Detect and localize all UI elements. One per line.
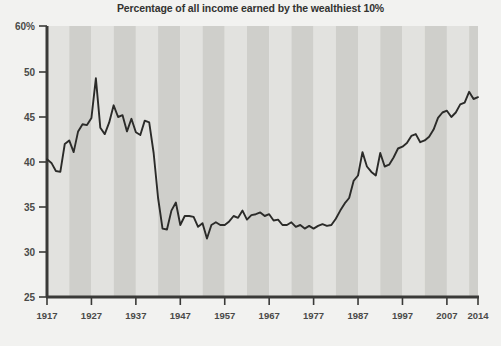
x-tick-label: 2007 — [436, 310, 457, 321]
y-tick-label: 45 — [24, 112, 36, 123]
x-tick-label: 1987 — [347, 310, 368, 321]
y-tick-label: 25 — [24, 292, 36, 303]
background-band — [469, 26, 478, 297]
x-tick-label: 1917 — [36, 310, 57, 321]
background-band — [69, 26, 91, 297]
background-band — [203, 26, 225, 297]
background-band — [269, 26, 291, 297]
x-tick-label: 1957 — [214, 310, 235, 321]
x-tick-label: 1927 — [81, 310, 102, 321]
background-band — [336, 26, 358, 297]
y-tick-label: 50 — [24, 67, 36, 78]
background-band — [91, 26, 113, 297]
x-tick-label: 1967 — [259, 310, 280, 321]
x-tick-label: 1937 — [125, 310, 146, 321]
y-tick-label: 30 — [24, 247, 36, 258]
background-band — [314, 26, 336, 297]
background-band — [247, 26, 269, 297]
line-chart-plot: 60%504540353025 191719271937194719571967… — [0, 0, 501, 346]
x-tick-label: 1977 — [303, 310, 324, 321]
background-band — [402, 26, 424, 297]
y-tick-label: 60% — [15, 21, 35, 32]
y-tick-label: 35 — [24, 202, 36, 213]
x-axis-ticks: 1917192719371947195719671977198719972007… — [36, 297, 489, 321]
background-band — [114, 26, 136, 297]
background-bands — [47, 26, 478, 297]
background-band — [291, 26, 313, 297]
chart-container: Percentage of all income earned by the w… — [0, 0, 501, 346]
background-band — [425, 26, 447, 297]
background-band — [158, 26, 180, 297]
y-axis-ticks: 60%504540353025 — [15, 21, 47, 303]
background-band — [447, 26, 469, 297]
x-tick-label: 1997 — [392, 310, 413, 321]
y-tick-label: 40 — [24, 157, 36, 168]
background-band — [180, 26, 202, 297]
background-band — [225, 26, 247, 297]
x-tick-label: 2014 — [467, 310, 489, 321]
x-tick-label: 1947 — [170, 310, 191, 321]
